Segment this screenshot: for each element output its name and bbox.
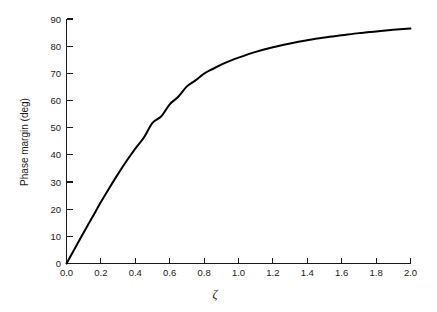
x-tick-label: 0.2 (94, 267, 107, 278)
x-tick-label: 1.8 (369, 267, 382, 278)
x-tick-label: 1.6 (335, 267, 348, 278)
y-tick-label: 90 (50, 14, 61, 25)
x-tick-label: 0.4 (129, 267, 142, 278)
y-tick-label: 70 (50, 68, 61, 79)
chart-figure: Phase margin (deg) ζ 0 10 20 30 40 5 (0, 0, 437, 312)
y-tick-marks (67, 19, 73, 264)
x-tick-label: 0.0 (60, 267, 73, 278)
y-axis-title: Phase margin (deg) (19, 98, 30, 186)
x-tick-marks (67, 258, 411, 264)
phase-margin-chart: Phase margin (deg) ζ 0 10 20 30 40 5 (0, 0, 437, 312)
y-tick-label: 30 (50, 177, 61, 188)
y-tick-label: 60 (50, 95, 61, 106)
x-tick-label: 1.4 (301, 267, 314, 278)
x-tick-labels: 0.0 0.2 0.4 0.6 0.8 1.0 1.2 1.4 1.6 1.8 … (60, 267, 417, 278)
phase-margin-curve (67, 29, 411, 264)
y-tick-label: 80 (50, 41, 61, 52)
x-tick-label: 0.8 (197, 267, 210, 278)
y-tick-label: 20 (50, 204, 61, 215)
y-tick-label: 50 (50, 122, 61, 133)
x-axis-title: ζ (213, 287, 219, 301)
x-tick-label: 2.0 (404, 267, 417, 278)
y-tick-labels: 0 10 20 30 40 50 60 70 80 90 (50, 14, 61, 270)
x-tick-label: 1.0 (232, 267, 245, 278)
x-tick-label: 1.2 (266, 267, 279, 278)
y-tick-label: 40 (50, 149, 61, 160)
x-tick-label: 0.6 (163, 267, 176, 278)
y-tick-label: 10 (50, 231, 61, 242)
